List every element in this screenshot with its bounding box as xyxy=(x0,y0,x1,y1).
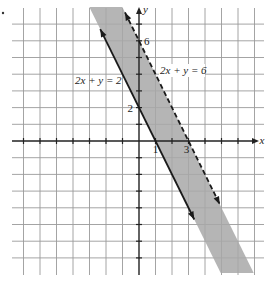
y-tick-label: 6 xyxy=(144,35,150,47)
y-tick-label: 2 xyxy=(128,102,134,114)
arrowhead-icon xyxy=(188,211,194,220)
x-tick-label: 1 xyxy=(153,143,159,155)
y-axis-arrow-icon xyxy=(136,7,142,14)
x-tick-label: 3 xyxy=(184,143,190,155)
y-axis-label: y xyxy=(142,3,148,15)
x-axis-label: x xyxy=(259,134,265,146)
equation-label-dashed: 2x + y = 6 xyxy=(160,64,207,76)
chart: x y 6 2 1 3 2x + y = 2 2x + y = 6 xyxy=(0,0,268,286)
x-axis-arrow-icon xyxy=(252,138,259,144)
bullet-dot xyxy=(2,12,4,14)
equation-label-solid: 2x + y = 2 xyxy=(75,74,122,86)
arrowhead-icon xyxy=(125,12,131,21)
